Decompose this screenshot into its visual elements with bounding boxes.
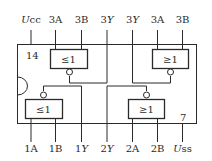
label-2b: 2B xyxy=(151,143,165,154)
label-2y: 2Y xyxy=(101,143,115,154)
gate-bottom-left: ≤1 xyxy=(26,92,63,119)
label-1a: 1A xyxy=(24,143,38,154)
label-3b-left: 3B xyxy=(75,14,89,25)
top-labels: Ucc 3A 3B 3Y 3Y 3A 3B xyxy=(21,14,189,25)
label-uss: Uss xyxy=(173,143,192,154)
label-3a-left: 3A xyxy=(49,14,63,25)
pin-number-7: 7 xyxy=(180,112,186,123)
gate-top-left: ≤1 xyxy=(51,50,88,76)
label-3b-right: 3B xyxy=(176,14,190,25)
gate-symbol: ≤1 xyxy=(36,104,51,115)
wire-gate1-to-1y xyxy=(44,86,82,91)
bottom-labels: 1A 1B 1Y 2Y 2A 2B Uss xyxy=(24,143,192,154)
gate-top-right: ≥1 xyxy=(153,50,189,76)
label-1y: 1Y xyxy=(75,143,89,154)
wire-gate2-to-2y xyxy=(107,86,147,91)
gate-symbol: ≥1 xyxy=(163,54,178,65)
wire-gate3a-to-3y xyxy=(70,76,108,83)
label-1b: 1B xyxy=(49,143,63,154)
gate-symbol: ≤1 xyxy=(61,54,76,65)
wire-gate3b-to-3y xyxy=(133,76,171,83)
chip-notch xyxy=(18,77,28,95)
label-3a-right: 3A xyxy=(151,14,165,25)
label-3y-right: 3Y xyxy=(126,14,140,25)
pin-number-14: 14 xyxy=(26,50,39,61)
label-3y-left: 3Y xyxy=(101,14,115,25)
gate-bottom-right: ≥1 xyxy=(129,92,165,119)
label-2a: 2A xyxy=(126,143,140,154)
ic-pinout-diagram: ≤1 ≥1 ≤1 ≥1 14 7 Ucc 3A 3B 3Y 3Y 3A 3B 1… xyxy=(0,0,212,161)
label-ucc: Ucc xyxy=(21,14,41,25)
gate-symbol: ≥1 xyxy=(139,104,154,115)
